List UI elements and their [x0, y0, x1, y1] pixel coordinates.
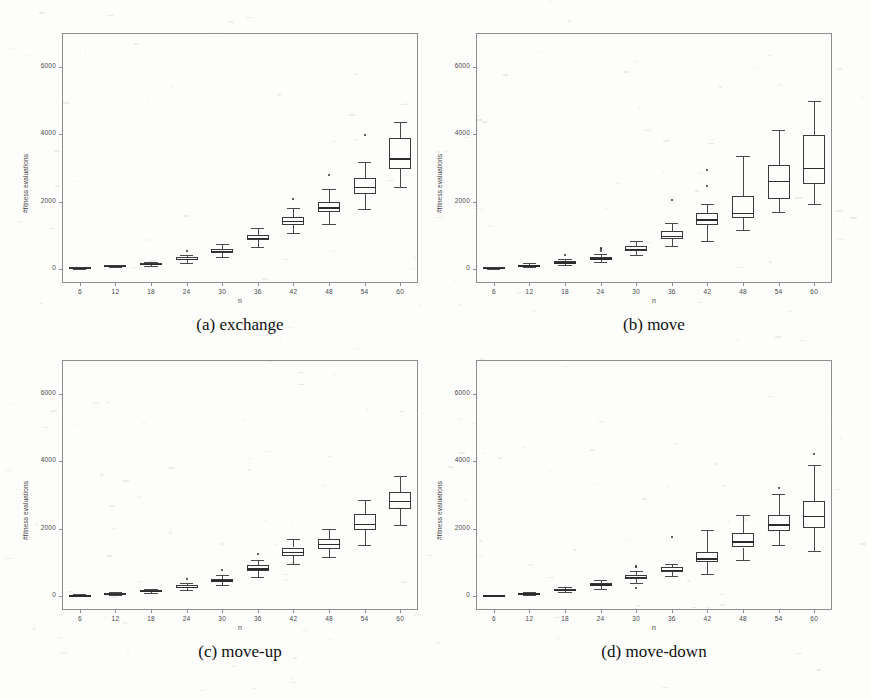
panel-d-ytick-mark [473, 596, 476, 597]
whisker-cap-upper [772, 494, 785, 495]
whisker-upper [707, 530, 708, 552]
whisker-lower [779, 531, 780, 546]
panel-d-xtick-label: 36 [658, 615, 686, 622]
median-line [696, 558, 718, 559]
panel-d-ytick-mark [473, 394, 476, 395]
panel-d: 0200040006000#fitness evaluations6121824… [0, 0, 871, 699]
panel-d-xtick-mark [743, 610, 744, 613]
panel-d-xtick-label: 54 [765, 615, 793, 622]
whisker-lower [707, 562, 708, 573]
panel-d-xtick-mark [779, 610, 780, 613]
panel-d-ytick-mark [473, 529, 476, 530]
whisker-lower [814, 528, 815, 551]
panel-d-xtick-mark [529, 610, 530, 613]
panel-d-ytick-label: 2000 [440, 524, 470, 531]
panel-d-xtick-label: 48 [729, 615, 757, 622]
outlier-point [813, 453, 815, 455]
median-line [554, 590, 576, 591]
panel-d-xtick-mark [636, 610, 637, 613]
median-line [590, 584, 612, 585]
panel-d-plot-frame [476, 360, 832, 610]
panel-d-yaxis-title: #fitness evaluations [436, 481, 443, 540]
box-iqr [696, 552, 718, 562]
box-iqr [803, 501, 825, 528]
panel-d-xtick-label: 12 [515, 615, 543, 622]
whisker-cap-upper [665, 564, 678, 565]
panel-d-xtick-mark [672, 610, 673, 613]
whisker-upper [814, 465, 815, 501]
median-line [768, 524, 790, 525]
whisker-lower [743, 548, 744, 561]
median-line [661, 570, 683, 571]
median-line [625, 577, 647, 578]
median-line [518, 593, 540, 594]
whisker-cap-lower [630, 583, 643, 584]
whisker-upper [779, 494, 780, 515]
box-iqr [732, 533, 754, 548]
panel-d-xtick-mark [707, 610, 708, 613]
whisker-cap-upper [808, 465, 821, 466]
panel-d-xtick-mark [565, 610, 566, 613]
panel-d-xtick-mark [601, 610, 602, 613]
median-line [732, 541, 754, 542]
whisker-cap-lower [665, 576, 678, 577]
panel-d-xtick-mark [494, 610, 495, 613]
whisker-cap-upper [701, 530, 714, 531]
panel-d-ytick-label: 0 [440, 591, 470, 598]
panel-d-caption: (d) move-down [414, 642, 871, 662]
whisker-cap-lower [772, 545, 785, 546]
panel-d-xtick-label: 42 [693, 615, 721, 622]
panel-d-xtick-label: 30 [622, 615, 650, 622]
panel-d-xtick-mark [814, 610, 815, 613]
whisker-cap-lower [736, 560, 749, 561]
panel-d-xtick-label: 24 [587, 615, 615, 622]
whisker-cap-upper [630, 571, 643, 572]
panel-d-xaxis-title: n [634, 624, 674, 631]
whisker-cap-upper [594, 580, 607, 581]
panel-d-ytick-mark [473, 461, 476, 462]
box-iqr [768, 515, 790, 531]
panel-d-xtick-label: 6 [480, 615, 508, 622]
whisker-cap-lower [808, 551, 821, 552]
whisker-cap-lower [558, 592, 571, 593]
whisker-cap-lower [594, 589, 607, 590]
median-line [803, 516, 825, 517]
whisker-cap-lower [701, 574, 714, 575]
median-line [483, 595, 505, 596]
outlier-point [671, 536, 673, 538]
whisker-cap-upper [736, 515, 749, 516]
panel-d-xtick-label: 18 [551, 615, 579, 622]
panel-d-ytick-label: 4000 [440, 456, 470, 463]
panel-d-ytick-label: 6000 [440, 389, 470, 396]
whisker-upper [743, 515, 744, 533]
panel-d-xtick-label: 60 [800, 615, 828, 622]
